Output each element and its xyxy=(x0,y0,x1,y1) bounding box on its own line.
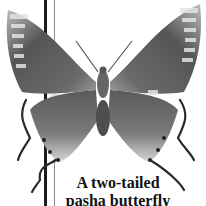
head xyxy=(100,67,107,74)
caption: A two-tailed pasha butterfly xyxy=(0,174,206,206)
thorax xyxy=(97,70,109,98)
abdomen xyxy=(96,100,110,136)
right-hindwing xyxy=(108,90,178,162)
caption-line-1: A two-tailed xyxy=(30,174,206,192)
photo-frame: A two-tailed pasha butterfly xyxy=(0,0,206,206)
right-tail-outer xyxy=(178,100,194,160)
left-hindwing xyxy=(30,90,98,162)
caption-line-2: pasha butterfly xyxy=(30,192,206,206)
left-forewing xyxy=(7,10,96,94)
left-tail-outer xyxy=(18,100,30,160)
